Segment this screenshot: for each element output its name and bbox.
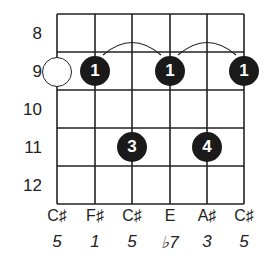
string-note: E bbox=[155, 207, 185, 225]
fret-number-11: 11 bbox=[12, 138, 42, 158]
finger-dot: 1 bbox=[155, 56, 185, 86]
string-interval: 5 bbox=[117, 232, 147, 252]
string-note: C♯ bbox=[42, 207, 72, 225]
finger-dot: 4 bbox=[192, 132, 222, 162]
string-note: A♯ bbox=[192, 207, 222, 225]
string-note: C♯ bbox=[229, 207, 259, 225]
string-interval: ♭7 bbox=[155, 232, 185, 253]
string-interval: 5 bbox=[229, 232, 259, 252]
string-interval: 1 bbox=[80, 232, 110, 252]
string-note: C♯ bbox=[117, 207, 147, 225]
fret-number-8: 8 bbox=[12, 24, 42, 44]
hollow-circle-marker bbox=[42, 57, 72, 87]
finger-dot: 1 bbox=[80, 56, 110, 86]
fret-number-12: 12 bbox=[12, 176, 42, 196]
string-interval: 3 bbox=[192, 232, 222, 252]
finger-dot: 1 bbox=[229, 56, 259, 86]
finger-dot: 3 bbox=[117, 132, 147, 162]
chord-diagram: 8 9 10 11 12 1 1 1 3 4 C♯ F♯ C♯ E A♯ C♯ … bbox=[0, 0, 272, 269]
string-interval: 5 bbox=[42, 232, 72, 252]
fret-number-9: 9 bbox=[12, 62, 42, 82]
fret-number-10: 10 bbox=[12, 100, 42, 120]
string-note: F♯ bbox=[80, 207, 110, 225]
